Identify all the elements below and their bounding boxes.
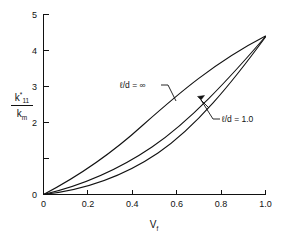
axis-group <box>44 14 266 195</box>
x-axis-title-sub: f <box>156 225 158 232</box>
y-tick-label-3: 3 <box>32 82 37 92</box>
x-tick-label-0p6: 0.6 <box>170 199 183 209</box>
y-tick-label-2: 2 <box>32 118 37 128</box>
annotation-ld-infinity: ℓ/d = ∞ <box>119 80 176 101</box>
annotation-ld-1p0-arrowhead <box>198 96 205 101</box>
x-tick-label-0: 0 <box>41 199 46 209</box>
x-tick-label-0p4: 0.4 <box>126 199 139 209</box>
y-axis-num-sub: 11 <box>22 97 29 104</box>
plot-canvas: 5 4 3 2 0 0 0.2 0.4 0.6 0.8 1.0 k*11 km <box>0 0 287 236</box>
annotation-ld-infinity-label: ℓ/d = ∞ <box>119 80 146 90</box>
y-axis-den-sub: m <box>22 114 27 121</box>
annotation-ld-1p0: ℓ/d = 1.0 <box>198 96 254 125</box>
x-tick-label-0p2: 0.2 <box>82 199 95 209</box>
y-axis-denominator: km <box>17 108 27 121</box>
y-tick-label-5: 5 <box>32 10 37 20</box>
y-axis-numerator: k*11 <box>15 91 30 104</box>
annotation-ld-1p0-label: ℓ/d = 1.0 <box>221 114 254 124</box>
x-axis-title: Vf <box>150 219 159 232</box>
x-tick-label-1p0: 1.0 <box>259 199 272 209</box>
y-tick-label-4: 4 <box>32 46 37 56</box>
chart-figure: 5 4 3 2 0 0 0.2 0.4 0.6 0.8 1.0 k*11 km <box>0 0 287 236</box>
y-tick-label-0: 0 <box>32 190 37 200</box>
y-axis-title: k*11 km <box>11 91 33 121</box>
x-tick-labels: 0 0.2 0.4 0.6 0.8 1.0 <box>41 199 272 209</box>
x-tick-label-0p8: 0.8 <box>215 199 228 209</box>
